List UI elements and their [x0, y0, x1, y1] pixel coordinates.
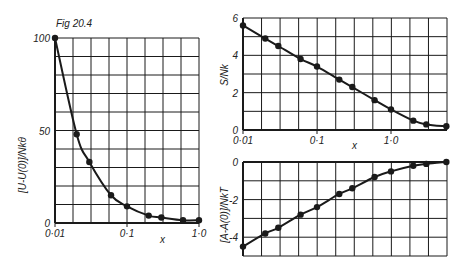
energy-y-axis-label: [U-U(0)]/Nkθ: [17, 136, 28, 194]
free-energy-y-axis-label: [A-A(0)]/NkT: [219, 186, 230, 243]
data-point-marker: [423, 121, 429, 127]
data-point-marker: [410, 163, 416, 169]
data-point-marker: [410, 117, 416, 123]
data-point-marker: [240, 22, 246, 28]
data-curve: [243, 162, 446, 247]
y-tick-label: -2: [229, 195, 238, 206]
data-point-marker: [336, 191, 342, 197]
data-point-marker: [158, 214, 164, 220]
y-tick-label: 6: [232, 13, 238, 24]
x-tick-label: 1·0: [384, 135, 399, 146]
data-point-marker: [297, 211, 303, 217]
data-point-marker: [52, 35, 58, 41]
data-point-marker: [180, 217, 186, 223]
data-point-marker: [314, 63, 320, 69]
entropy-x-axis-label: x: [351, 140, 358, 151]
y-tick-label: -4: [229, 232, 238, 243]
data-point-marker: [145, 212, 151, 218]
y-tick-label: 0: [232, 157, 238, 168]
y-tick-label: 50: [39, 126, 51, 137]
data-point-marker: [388, 106, 394, 112]
data-point-marker: [349, 84, 355, 90]
x-tick-label: 0·01: [45, 228, 65, 239]
data-point-marker: [443, 159, 449, 165]
energy-plot: 0501000·010·11·0: [33, 33, 206, 239]
data-point-marker: [124, 203, 130, 209]
x-tick-label: 0·01: [233, 135, 253, 146]
energy-x-axis-label: x: [159, 234, 166, 245]
y-tick-label: 2: [231, 88, 238, 99]
data-point-marker: [108, 192, 114, 198]
entropy-plot: 02460·010·11·0: [231, 13, 449, 146]
data-point-marker: [86, 159, 92, 165]
data-point-marker: [73, 131, 79, 137]
data-point-marker: [336, 76, 342, 82]
entropy-y-axis-label: S/Nk: [219, 63, 230, 86]
data-point-marker: [297, 56, 303, 62]
data-point-marker: [196, 217, 202, 223]
data-point-marker: [275, 225, 281, 231]
data-point-marker: [314, 204, 320, 210]
figure-caption: Fig 20.4: [56, 18, 93, 29]
x-tick-label: 0·1: [120, 228, 134, 239]
x-tick-label: 1·0: [192, 228, 207, 239]
x-tick-label: 0·1: [310, 135, 324, 146]
data-point-marker: [240, 243, 246, 249]
figure-canvas: Fig 20.4 0501000·010·11·0 02460·010·11·0…: [0, 0, 463, 265]
data-point-marker: [349, 185, 355, 191]
data-point-marker: [262, 230, 268, 236]
data-point-marker: [262, 35, 268, 41]
y-tick-label: 4: [232, 50, 238, 61]
data-point-marker: [275, 43, 281, 49]
data-point-marker: [371, 174, 377, 180]
free-energy-plot: 0-2-4: [229, 157, 449, 256]
y-tick-label: 100: [33, 33, 50, 44]
data-point-marker: [388, 168, 394, 174]
data-point-marker: [443, 123, 449, 129]
data-point-marker: [371, 97, 377, 103]
data-point-marker: [423, 161, 429, 167]
